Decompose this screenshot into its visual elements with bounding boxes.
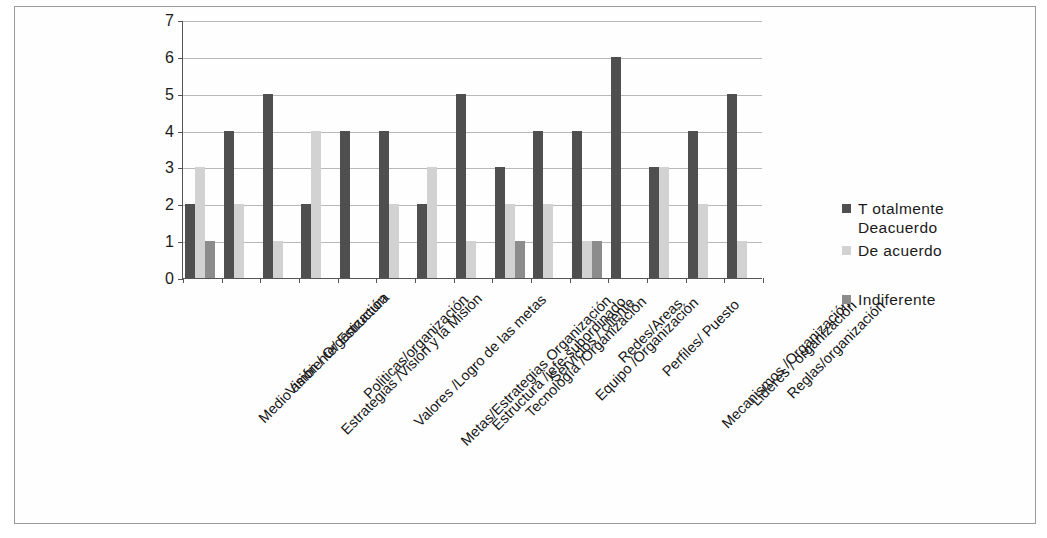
y-axis-tick-label: 4 (144, 123, 174, 141)
bar (427, 167, 437, 278)
bar (205, 241, 215, 278)
bar-group (531, 21, 570, 278)
legend-item[interactable]: De acuerdo (842, 241, 1032, 260)
bar (649, 167, 659, 278)
bar (466, 241, 476, 278)
bar-group (376, 21, 415, 278)
legend-swatch-icon (842, 204, 851, 213)
bar-group (454, 21, 493, 278)
plot-area (182, 21, 762, 279)
bar (301, 204, 311, 278)
bar (582, 241, 592, 278)
bar-group (608, 21, 647, 278)
y-axis-tick-label: 1 (144, 233, 174, 251)
legend-label: Indiferente (858, 290, 936, 309)
bar (698, 204, 708, 278)
legend-swatch-icon (842, 295, 851, 304)
bar (533, 131, 543, 278)
chart-frame: 01234567 Medio ambiente/ EstructuraVisió… (14, 6, 1036, 524)
bar (737, 241, 747, 278)
bar-group (222, 21, 261, 278)
bar-group (260, 21, 299, 278)
bar (543, 204, 553, 278)
bar (195, 167, 205, 278)
bar (389, 204, 399, 278)
legend-item[interactable]: Indiferente (842, 290, 1032, 309)
bar (495, 167, 505, 278)
chart-legend: T otalmenteDeacuerdoDe acuerdoIndiferent… (842, 199, 1032, 313)
legend-item[interactable]: T otalmenteDeacuerdo (842, 199, 1032, 237)
bar (659, 167, 669, 278)
y-axis-tick-label: 3 (144, 159, 174, 177)
bar-group (183, 21, 222, 278)
y-axis-tick-label: 2 (144, 196, 174, 214)
bar-group (686, 21, 725, 278)
bar-group (338, 21, 377, 278)
bar (515, 241, 525, 278)
bar (456, 94, 466, 278)
bar-group (492, 21, 531, 278)
bar (727, 94, 737, 278)
y-axis-labels: 01234567 (142, 21, 174, 279)
bar (273, 241, 283, 278)
legend-spacer (842, 264, 1032, 290)
bar (611, 57, 621, 278)
plot-area-wrapper (182, 21, 762, 279)
bar (505, 204, 515, 278)
bar (592, 241, 602, 278)
bar-group (724, 21, 763, 278)
bar (379, 131, 389, 278)
y-axis-tick-label: 7 (144, 12, 174, 30)
bar (224, 131, 234, 278)
bar (311, 131, 321, 278)
bar-group (570, 21, 609, 278)
legend-label: De acuerdo (858, 241, 942, 260)
bar (417, 204, 427, 278)
legend-swatch-icon (842, 246, 851, 255)
bar (263, 94, 273, 278)
bar-group (415, 21, 454, 278)
bar (234, 204, 244, 278)
bar (688, 131, 698, 278)
bar-group (299, 21, 338, 278)
y-axis-tick-label: 6 (144, 49, 174, 67)
bar (340, 131, 350, 278)
bar-group (647, 21, 686, 278)
y-axis-tick-label: 0 (144, 270, 174, 288)
bar (572, 131, 582, 278)
y-axis-tick-label: 5 (144, 86, 174, 104)
x-axis-labels: Medio ambiente/ EstructuraVisión / Organ… (182, 281, 782, 511)
legend-label: T otalmenteDeacuerdo (858, 199, 944, 237)
bar (185, 204, 195, 278)
